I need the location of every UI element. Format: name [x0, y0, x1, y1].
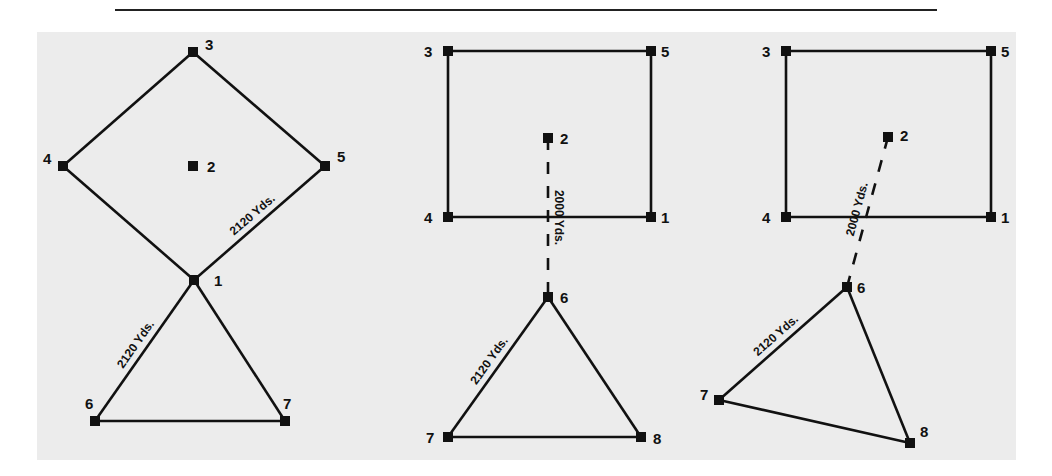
node-label-2: 2 [560, 130, 568, 147]
node-label-6: 6 [85, 395, 93, 412]
edge-4-1 [63, 166, 194, 280]
edge-1-7 [194, 280, 285, 421]
node-marker-6 [543, 292, 553, 302]
edges-layer [63, 51, 991, 443]
node-label-8: 8 [920, 423, 928, 440]
node-label-3: 3 [424, 43, 432, 60]
node-label-3: 3 [205, 36, 213, 53]
edge-6-8 [847, 287, 910, 443]
distance-label: 2000 Yds. [843, 181, 871, 238]
nodes-layer [58, 46, 996, 448]
node-label-2: 2 [900, 127, 908, 144]
node-marker-7 [280, 416, 290, 426]
node-marker-3 [188, 47, 198, 57]
edge-7-8 [719, 400, 910, 443]
node-marker-4 [781, 212, 791, 222]
node-label-1: 1 [661, 209, 669, 226]
edge-3-4 [63, 52, 193, 166]
node-label-3: 3 [762, 43, 770, 60]
node-marker-4 [443, 212, 453, 222]
node-marker-7 [714, 395, 724, 405]
node-marker-5 [320, 161, 330, 171]
node-label-4: 4 [43, 150, 52, 167]
node-marker-1 [646, 212, 656, 222]
diagram-canvas: 12345672120 Yds.2120 Yds.123456782000 Yd… [0, 0, 1052, 476]
node-marker-8 [636, 432, 646, 442]
node-label-2: 2 [207, 158, 215, 175]
node-label-6: 6 [857, 279, 865, 296]
node-label-7: 7 [426, 429, 434, 446]
node-label-5: 5 [337, 148, 345, 165]
node-label-7: 7 [283, 395, 291, 412]
edge-6-7 [448, 297, 548, 437]
node-label-7: 7 [700, 386, 708, 403]
node-marker-1 [189, 275, 199, 285]
node-label-5: 5 [661, 43, 669, 60]
node-marker-3 [781, 46, 791, 56]
node-label-5: 5 [1001, 43, 1009, 60]
node-marker-8 [905, 438, 915, 448]
node-marker-6 [842, 282, 852, 292]
distance-label: 2000 Yds. [552, 190, 566, 245]
node-label-1: 1 [214, 272, 222, 289]
node-marker-2 [543, 133, 553, 143]
node-label-6: 6 [560, 289, 568, 306]
edge-5-1 [194, 166, 325, 280]
node-label-4: 4 [762, 209, 771, 226]
node-marker-1 [986, 212, 996, 222]
node-label-8: 8 [653, 430, 661, 447]
edge-6-7 [719, 287, 847, 400]
node-marker-4 [58, 161, 68, 171]
labels-layer: 12345672120 Yds.2120 Yds.123456782000 Yd… [43, 36, 1009, 447]
node-label-4: 4 [424, 209, 433, 226]
node-marker-6 [90, 416, 100, 426]
node-marker-2 [883, 132, 893, 142]
node-label-1: 1 [1001, 209, 1009, 226]
edge-3-5 [193, 52, 325, 166]
edge-6-8 [548, 297, 641, 437]
node-marker-5 [646, 46, 656, 56]
node-marker-7 [443, 432, 453, 442]
edge-1-6 [95, 280, 194, 421]
node-marker-5 [986, 46, 996, 56]
node-marker-3 [443, 46, 453, 56]
node-marker-2 [188, 161, 198, 171]
